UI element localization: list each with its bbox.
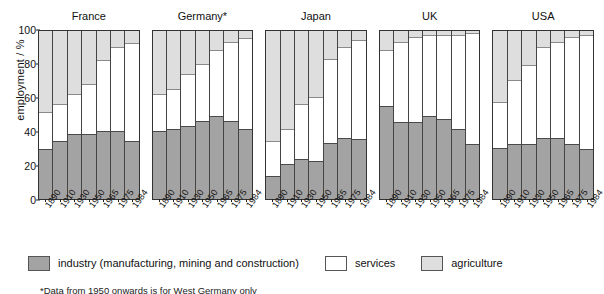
bar-segment-agriculture	[53, 31, 66, 105]
bar-segment-agriculture	[295, 31, 308, 105]
stacked-bar[interactable]	[167, 31, 181, 199]
stacked-bar[interactable]	[39, 31, 53, 199]
stacked-bar[interactable]	[309, 31, 323, 199]
stacked-bar[interactable]	[565, 31, 579, 199]
bar-segment-agriculture	[338, 31, 351, 48]
stacked-bar[interactable]	[493, 31, 507, 199]
x-axis-tick: 1984	[125, 202, 140, 242]
plot-area	[265, 30, 367, 200]
stacked-bar[interactable]	[210, 31, 224, 199]
x-axis-tick: 1975	[338, 202, 353, 242]
stacked-bar[interactable]	[508, 31, 522, 199]
stacked-bar[interactable]	[295, 31, 309, 199]
stacked-bar[interactable]	[281, 31, 295, 199]
stacked-bar[interactable]	[97, 31, 111, 199]
bar-segment-services	[508, 81, 521, 145]
bar-segment-services	[82, 85, 95, 135]
x-axis-tick: 1965	[550, 202, 565, 242]
stacked-bar[interactable]	[423, 31, 437, 199]
footnote: *Data from 1950 onwards is for West Germ…	[40, 285, 257, 294]
bar-segment-agriculture	[224, 31, 237, 43]
bar-segment-agriculture	[537, 31, 550, 48]
bar-segment-services	[239, 39, 252, 130]
stacked-bar[interactable]	[338, 31, 352, 199]
bar-segment-agriculture	[266, 31, 279, 142]
x-axis-tick: 1984	[579, 202, 594, 242]
bar-segment-industry	[423, 117, 436, 199]
x-axis-tick: 1950	[195, 202, 210, 242]
legend-item-services[interactable]: services	[325, 256, 395, 271]
x-axis-tick: 1950	[82, 202, 97, 242]
y-axis-tick-label: 100	[18, 24, 36, 36]
y-axis: 020406080100	[0, 0, 40, 294]
x-axis-tick: 1984	[466, 202, 481, 242]
y-axis-tick-label: 80	[24, 58, 36, 70]
bar-segment-agriculture	[309, 31, 322, 98]
stacked-bar[interactable]	[452, 31, 466, 199]
stacked-bar[interactable]	[352, 31, 365, 199]
x-axis-tick: 1930	[408, 202, 423, 242]
x-axis: 1890191019301950196519751984	[265, 202, 367, 242]
stacked-bar[interactable]	[437, 31, 451, 199]
stacked-bar[interactable]	[153, 31, 167, 199]
bar-segment-services	[196, 65, 209, 122]
stacked-bar[interactable]	[111, 31, 125, 199]
bar-segment-agriculture	[508, 31, 521, 81]
y-axis-tick-label: 60	[24, 92, 36, 104]
legend-item-agriculture[interactable]: agriculture	[421, 256, 502, 271]
plot-area	[152, 30, 254, 200]
panel-title: UK	[379, 10, 481, 22]
legend-item-industry[interactable]: industry (manufacturing, mining and cons…	[28, 256, 299, 271]
stacked-bar[interactable]	[196, 31, 210, 199]
bar-segment-agriculture	[82, 31, 95, 85]
x-axis-tick: 1930	[181, 202, 196, 242]
bar-segment-services	[281, 130, 294, 165]
panel-title: Japan	[265, 10, 367, 22]
panel-france: France1890191019301950196519751984	[38, 30, 140, 200]
stacked-bar[interactable]	[181, 31, 195, 199]
bar-segment-services	[125, 44, 138, 141]
panels-container: France1890191019301950196519751984German…	[38, 30, 594, 200]
bar-segment-services	[97, 61, 110, 132]
stacked-bar[interactable]	[409, 31, 423, 199]
bar-segment-agriculture	[239, 31, 252, 39]
stacked-bar[interactable]	[224, 31, 238, 199]
stacked-bar[interactable]	[266, 31, 280, 199]
bar-segment-agriculture	[380, 31, 393, 51]
x-axis-tick: 1965	[437, 202, 452, 242]
stacked-bar[interactable]	[53, 31, 67, 199]
bar-segment-agriculture	[167, 31, 180, 90]
stacked-bar[interactable]	[551, 31, 565, 199]
bar-segment-services	[551, 43, 564, 139]
x-axis: 1890191019301950196519751984	[38, 202, 140, 242]
x-axis-tick: 1910	[393, 202, 408, 242]
plot-area	[492, 30, 594, 200]
bar-segment-services	[153, 95, 166, 132]
stacked-bar[interactable]	[239, 31, 252, 199]
stacked-bar[interactable]	[324, 31, 338, 199]
bar-segment-services	[224, 43, 237, 122]
bar-segment-services	[565, 38, 578, 146]
legend-swatch-services	[325, 256, 347, 271]
panel-uk: UK1890191019301950196519751984	[379, 30, 481, 200]
bar-segment-services	[53, 105, 66, 142]
bar-segment-services	[338, 48, 351, 139]
panel-title: France	[38, 10, 140, 22]
bar-segment-services	[380, 51, 393, 106]
bar-segment-services	[39, 113, 52, 150]
x-axis-tick: 1890	[38, 202, 53, 242]
stacked-bar[interactable]	[380, 31, 394, 199]
stacked-bar[interactable]	[580, 31, 593, 199]
stacked-bar[interactable]	[68, 31, 82, 199]
stacked-bar[interactable]	[466, 31, 479, 199]
bar-segment-services	[522, 66, 535, 145]
bar-segment-services	[580, 36, 593, 150]
panel-usa: USA1890191019301950196519751984	[492, 30, 594, 200]
x-axis-tick: 1930	[521, 202, 536, 242]
panel-title: Germany*	[152, 10, 254, 22]
stacked-bar[interactable]	[82, 31, 96, 199]
stacked-bar[interactable]	[125, 31, 138, 199]
stacked-bar[interactable]	[537, 31, 551, 199]
stacked-bar[interactable]	[394, 31, 408, 199]
stacked-bar[interactable]	[522, 31, 536, 199]
